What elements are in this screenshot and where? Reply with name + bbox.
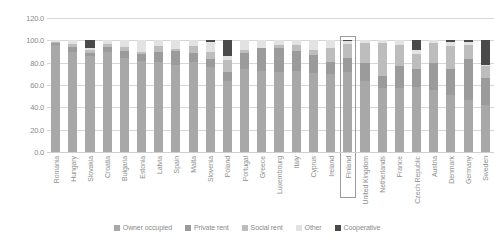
stacked-bar[interactable] bbox=[51, 40, 60, 152]
bar-segment bbox=[189, 53, 198, 62]
bar-slot[interactable] bbox=[202, 18, 219, 152]
stacked-bar[interactable] bbox=[429, 40, 438, 152]
stacked-bar[interactable] bbox=[240, 40, 249, 152]
bar-segment bbox=[309, 40, 318, 50]
bar-segment bbox=[223, 72, 232, 81]
bar-slot[interactable] bbox=[460, 18, 477, 152]
bar-slot[interactable] bbox=[81, 18, 98, 152]
stacked-bar[interactable] bbox=[171, 40, 180, 152]
bar-slot[interactable] bbox=[477, 18, 494, 152]
stacked-bar[interactable] bbox=[120, 40, 129, 152]
stacked-bar[interactable] bbox=[154, 40, 163, 152]
bar-slot[interactable] bbox=[322, 18, 339, 152]
y-axis-tick-label: 120.0 bbox=[0, 14, 44, 23]
legend-swatch bbox=[242, 225, 248, 231]
bar-segment bbox=[446, 69, 455, 95]
bar-slot[interactable] bbox=[236, 18, 253, 152]
bar-slot[interactable] bbox=[442, 18, 459, 152]
x-label-slot: Ireland bbox=[322, 154, 339, 206]
stacked-bar[interactable] bbox=[395, 40, 404, 152]
bar-slot[interactable] bbox=[288, 18, 305, 152]
stacked-bar[interactable] bbox=[360, 40, 369, 152]
stacked-bar[interactable] bbox=[189, 40, 198, 152]
x-axis-labels: RomaniaHungarySlovakiaCroatiaBulgariaEst… bbox=[47, 154, 494, 206]
bar-segment bbox=[223, 81, 232, 152]
stacked-bar[interactable] bbox=[85, 40, 94, 152]
legend-swatch bbox=[335, 225, 341, 231]
x-label-slot: Latvia bbox=[150, 154, 167, 206]
bar-segment bbox=[171, 65, 180, 152]
bar-segment bbox=[206, 67, 215, 152]
bar-segment bbox=[343, 58, 352, 73]
bar-segment bbox=[446, 95, 455, 152]
x-label-slot: Austria bbox=[425, 154, 442, 206]
y-axis-tick-label: 100.0 bbox=[0, 36, 44, 45]
bar-slot[interactable] bbox=[99, 18, 116, 152]
bar-slot[interactable] bbox=[270, 18, 287, 152]
x-axis-category-label: Spain bbox=[172, 156, 179, 173]
bar-slot[interactable] bbox=[425, 18, 442, 152]
bar-slot[interactable] bbox=[356, 18, 373, 152]
bar-slot[interactable] bbox=[253, 18, 270, 152]
bar-segment bbox=[154, 52, 163, 62]
bar-slot[interactable] bbox=[116, 18, 133, 152]
legend-item[interactable]: Private rent bbox=[185, 224, 229, 231]
bar-slot[interactable] bbox=[391, 18, 408, 152]
x-label-slot: Estonia bbox=[133, 154, 150, 206]
stacked-bar[interactable] bbox=[378, 40, 387, 152]
bar-segment bbox=[120, 40, 129, 47]
stacked-bar[interactable] bbox=[103, 40, 112, 152]
bar-slot[interactable] bbox=[408, 18, 425, 152]
stacked-bar[interactable] bbox=[68, 40, 77, 152]
stacked-bar[interactable] bbox=[326, 40, 335, 152]
bar-slot[interactable] bbox=[305, 18, 322, 152]
bar-segment bbox=[206, 59, 215, 67]
bar-slot[interactable] bbox=[47, 18, 64, 152]
x-label-slot: Italy bbox=[288, 154, 305, 206]
legend-item[interactable]: Owner occupied bbox=[114, 224, 172, 231]
stacked-bar[interactable] bbox=[223, 40, 232, 152]
bar-segment bbox=[481, 40, 490, 65]
x-axis-category-label: Netherlands bbox=[379, 156, 386, 193]
stacked-bar[interactable] bbox=[257, 40, 266, 152]
x-label-slot: Luxembourg bbox=[270, 154, 287, 206]
stacked-bar[interactable] bbox=[137, 40, 146, 152]
legend-item[interactable]: Other bbox=[296, 224, 322, 231]
x-axis-category-label: Estonia bbox=[138, 156, 145, 179]
bar-slot[interactable] bbox=[219, 18, 236, 152]
bar-segment bbox=[240, 40, 249, 50]
bar-slot[interactable] bbox=[185, 18, 202, 152]
x-axis-category-label: Malta bbox=[190, 156, 197, 173]
x-label-slot: Slovakia bbox=[81, 154, 98, 206]
bar-slot[interactable] bbox=[64, 18, 81, 152]
bar-segment bbox=[189, 46, 198, 53]
bar-segment bbox=[343, 72, 352, 152]
x-axis-category-label: Portugal bbox=[241, 156, 248, 181]
stacked-bar[interactable] bbox=[412, 40, 421, 152]
legend-item[interactable]: Cooperative bbox=[335, 224, 381, 231]
bar-slot[interactable] bbox=[150, 18, 167, 152]
bar-segment bbox=[395, 45, 404, 66]
stacked-bar[interactable] bbox=[446, 40, 455, 152]
x-label-slot: France bbox=[391, 154, 408, 206]
stacked-bar[interactable] bbox=[274, 40, 283, 152]
bar-segment bbox=[309, 55, 318, 72]
bar-slot[interactable] bbox=[133, 18, 150, 152]
bar-segment bbox=[395, 66, 404, 88]
stacked-bar[interactable] bbox=[481, 40, 490, 152]
bar-segment bbox=[257, 48, 266, 70]
stacked-bar[interactable] bbox=[464, 40, 473, 152]
stacked-bar[interactable] bbox=[309, 40, 318, 152]
bar-slot[interactable] bbox=[374, 18, 391, 152]
stacked-bar[interactable] bbox=[292, 40, 301, 152]
bar-slot[interactable] bbox=[339, 18, 356, 152]
bar-segment bbox=[171, 51, 180, 65]
bar-slot[interactable] bbox=[167, 18, 184, 152]
bar-segment bbox=[257, 71, 266, 153]
x-axis-category-label: Hungary bbox=[69, 156, 76, 182]
legend-item[interactable]: Social rent bbox=[242, 224, 283, 231]
legend-swatch bbox=[114, 225, 120, 231]
stacked-bar[interactable] bbox=[206, 40, 215, 152]
x-label-slot: Romania bbox=[47, 154, 64, 206]
stacked-bar[interactable] bbox=[343, 40, 352, 152]
